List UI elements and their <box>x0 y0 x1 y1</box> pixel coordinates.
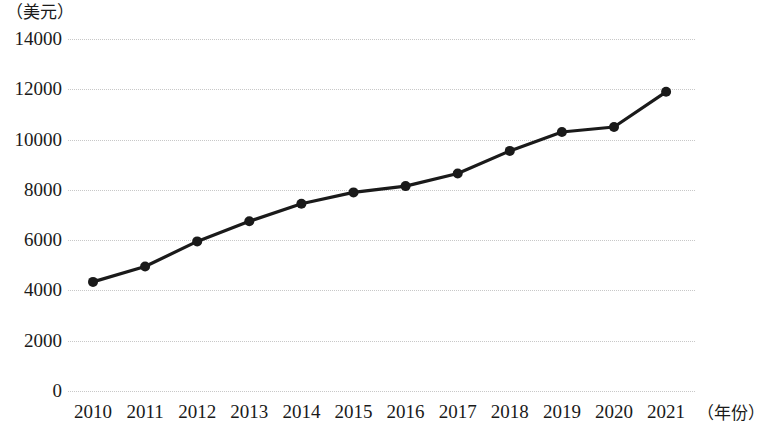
x-axis-tick-label: 2010 <box>63 401 123 423</box>
x-axis-tick-label: 2012 <box>167 401 227 423</box>
y-axis-tick-label: 12000 <box>2 79 62 98</box>
data-point-marker <box>661 87 671 97</box>
x-axis-tick-label: 2013 <box>219 401 279 423</box>
data-point-marker <box>401 181 411 191</box>
y-axis-unit-label: （美元） <box>6 2 74 24</box>
series-line <box>93 92 666 282</box>
x-axis-tick-label: 2011 <box>115 401 175 423</box>
data-point-marker <box>453 169 463 179</box>
x-axis-tick-label: 2014 <box>271 401 331 423</box>
data-point-marker <box>88 277 98 287</box>
data-point-marker <box>296 199 306 209</box>
data-point-marker <box>609 122 619 132</box>
y-axis-tick-label: 6000 <box>2 230 62 249</box>
y-axis-tick-label: 4000 <box>2 280 62 299</box>
x-axis-tick-label: 2019 <box>532 401 592 423</box>
plot-area <box>68 39 695 391</box>
line-chart: （美元） （年份） 140001200010000800060004000200… <box>0 0 767 430</box>
y-axis-tick-label: 14000 <box>2 29 62 48</box>
x-axis-tick-label: 2016 <box>376 401 436 423</box>
y-axis-tick-label: 0 <box>2 381 62 400</box>
data-series-line <box>68 39 695 391</box>
x-axis-unit-label: （年份） <box>697 402 765 426</box>
x-axis-tick-label: 2018 <box>480 401 540 423</box>
data-point-marker <box>192 236 202 246</box>
data-point-marker <box>349 187 359 197</box>
data-point-marker <box>140 262 150 272</box>
gridline <box>68 391 695 392</box>
x-axis-tick-label: 2021 <box>636 401 696 423</box>
x-axis-tick-label: 2020 <box>584 401 644 423</box>
data-point-marker <box>505 146 515 156</box>
data-point-marker <box>244 216 254 226</box>
y-axis-tick-label: 8000 <box>2 180 62 199</box>
y-axis-tick-label: 2000 <box>2 331 62 350</box>
x-axis-tick-label: 2017 <box>428 401 488 423</box>
x-axis-tick-label: 2015 <box>324 401 384 423</box>
y-axis-tick-label: 10000 <box>2 130 62 149</box>
data-point-marker <box>557 127 567 137</box>
